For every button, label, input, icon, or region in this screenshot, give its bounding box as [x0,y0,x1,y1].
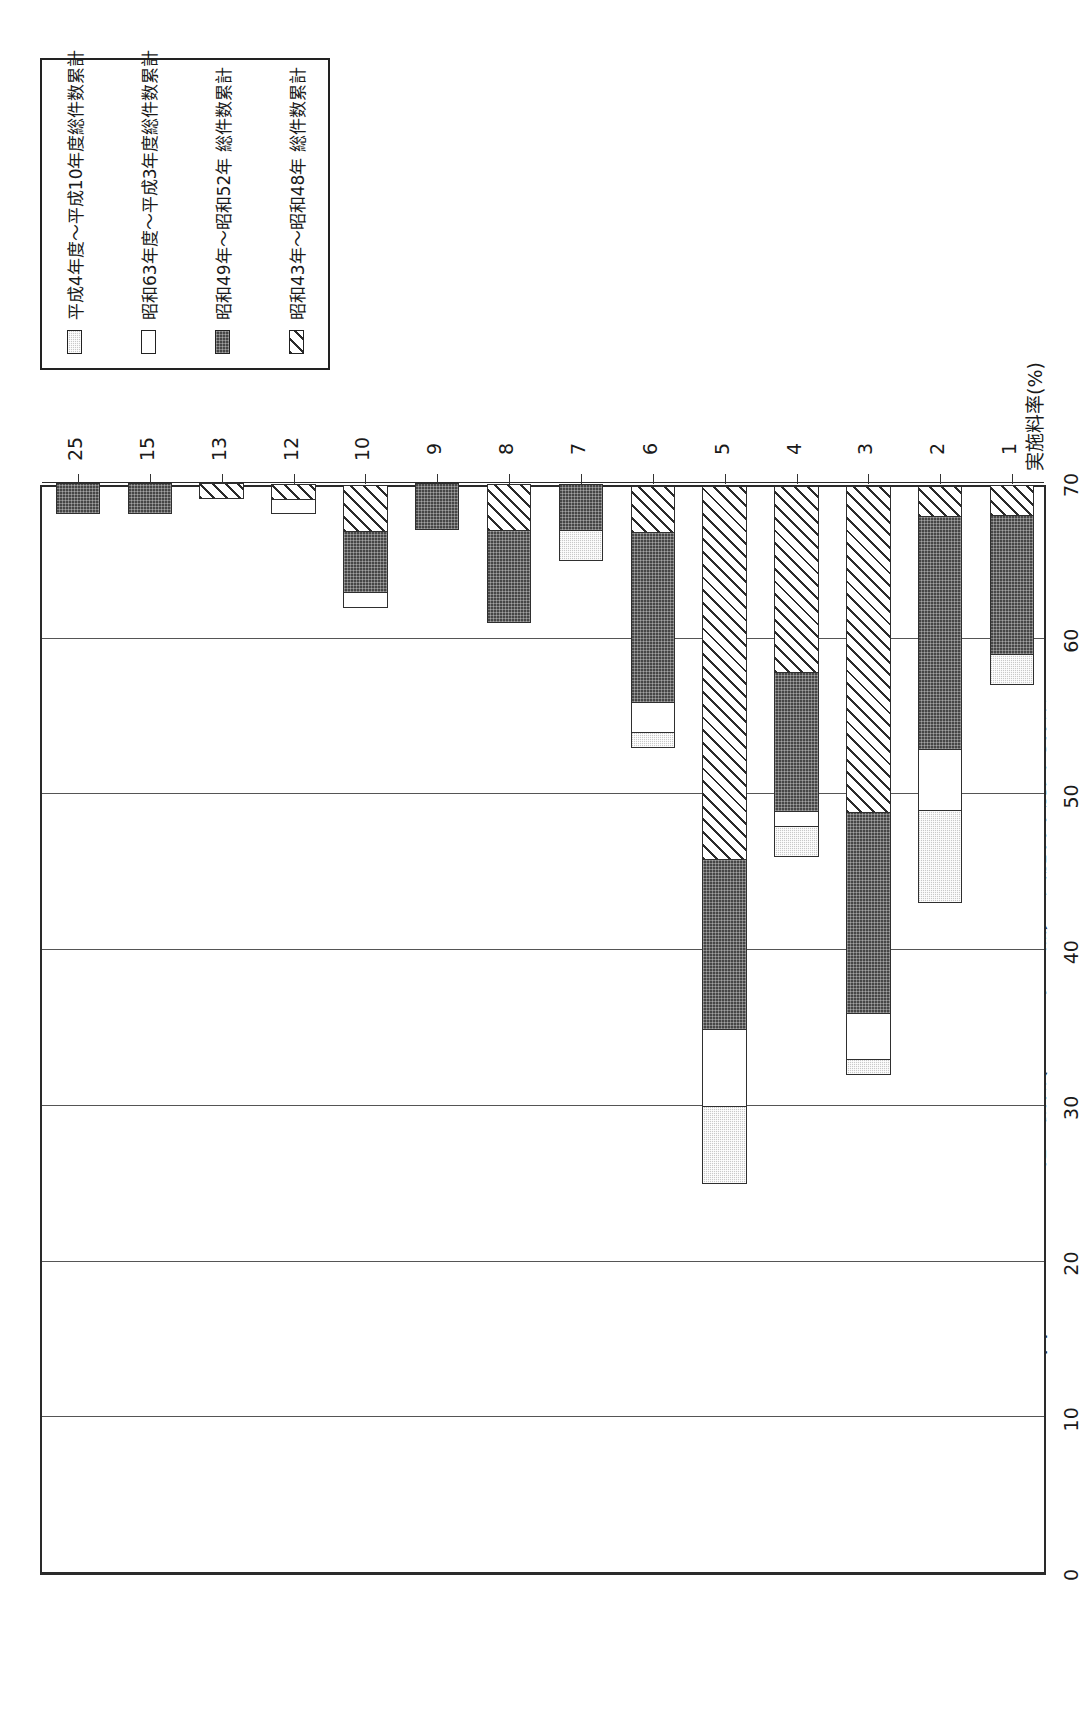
gridline [42,482,1044,483]
bar-stack[interactable] [990,483,1035,685]
category-axis-tick-label: 1 [998,429,1020,469]
legend-item[interactable]: 昭和49年～昭和52年 総件数累計 [200,74,244,354]
category-axis-tick-label: 4 [783,429,805,469]
category-tickmark [78,474,79,484]
bar-segment [918,749,963,811]
category-axis-tick-label: 6 [639,429,661,469]
bar-stack[interactable] [774,483,819,857]
category-tickmark [940,474,941,484]
bar-segment [487,530,532,623]
legend-item[interactable]: 昭和63年度～平成3年度総件数累計 [126,74,170,354]
bar-segment [199,483,244,499]
gridline [42,1261,1044,1262]
bar-segment [774,672,819,812]
category-axis-tick-label: 7 [567,429,589,469]
category-tickmark [509,474,510,484]
bar-segment [343,485,388,532]
bar-segment [343,592,388,608]
category-axis-tick-label: 25 [64,429,86,469]
category-tickmark [797,474,798,484]
bar-stack[interactable] [415,483,460,530]
gridline [42,1105,1044,1106]
legend-swatch-showa43-icon [289,330,304,354]
legend-swatch-showa63-icon [141,330,156,354]
rotated-figure-canvas: 図 2 －16－ 2 その他の機械(イニシャル 無)の実施料率別契約件数 平成4… [0,0,1090,1715]
bar-stack[interactable] [559,483,604,561]
bar-segment [774,826,819,857]
legend-swatch-showa49-icon [215,330,230,354]
bar-stack[interactable] [56,483,101,514]
bar-segment [702,1029,747,1107]
bar-stack[interactable] [343,483,388,608]
category-tickmark [725,474,726,484]
bar-segment [271,499,316,515]
bar-segment [918,516,963,750]
plot-area [40,485,1046,1575]
bar-segment [56,483,101,514]
category-axis-tick-label: 8 [495,429,517,469]
category-tickmark [294,474,295,484]
bar-stack[interactable] [918,483,963,903]
value-axis-tick-label: 30 [1060,1085,1082,1131]
bar-segment [702,859,747,1030]
bar-stack[interactable] [702,483,747,1184]
bar-stack[interactable] [487,483,532,623]
bar-segment [990,654,1035,685]
category-tickmark [150,474,151,484]
bar-segment [631,702,676,733]
category-tickmark [653,474,654,484]
bar-segment [343,531,388,593]
value-axis-tick-label: 50 [1060,773,1082,819]
value-axis-tick-label: 40 [1060,929,1082,975]
bar-segment [846,1059,891,1075]
gridline [42,793,1044,794]
legend-item-label: 昭和43年～昭和48年 総件数累計 [284,67,309,320]
gridline [42,638,1044,639]
value-axis-tick-label: 10 [1060,1396,1082,1442]
value-axis-tick-label: 70 [1060,462,1082,508]
bar-stack[interactable] [846,483,891,1075]
legend: 平成4年度～平成10年度総件数累計 昭和63年度～平成3年度総件数累計 昭和49… [40,58,330,370]
bar-stack[interactable] [271,483,316,514]
bar-stack[interactable] [631,483,676,748]
bar-segment [774,811,819,827]
category-axis-tick-label: 2 [926,429,948,469]
category-tickmark [868,474,869,484]
value-axis-tick-label: 60 [1060,618,1082,664]
category-axis-tick-label: 5 [711,429,733,469]
legend-item[interactable]: 昭和43年～昭和48年 総件数累計 [274,74,318,354]
bar-segment [918,486,963,517]
category-tickmark [222,474,223,484]
bar-segment [846,812,891,1014]
category-tickmark [365,474,366,484]
bar-stack[interactable] [128,483,173,514]
bar-segment [128,483,173,514]
bar-segment [415,483,460,530]
gridline [42,1416,1044,1417]
category-tickmark [437,474,438,484]
bar-segment [918,810,963,903]
gridline [42,1572,1044,1573]
bar-segment [631,732,676,748]
category-tickmark [581,474,582,484]
legend-item-label: 昭和49年～昭和52年 総件数累計 [210,67,235,320]
legend-swatch-heisei4-icon [67,330,82,354]
category-tickmark [1012,474,1013,484]
bar-segment [846,486,891,813]
category-axis-tick-label: 15 [136,429,158,469]
legend-item[interactable]: 平成4年度～平成10年度総件数累計 [52,74,96,354]
bar-segment [631,486,676,533]
category-axis-tick-label: 3 [854,429,876,469]
bar-segment [774,486,819,673]
bar-segment [271,484,316,500]
bar-segment [559,530,604,561]
category-axis-tick-label: 13 [208,429,230,469]
category-axis-title: 実施料率(%) [1020,362,1047,471]
bar-segment [702,1106,747,1184]
bar-segment [559,484,604,531]
bar-segment [702,486,747,860]
plot-area-wrapper: 件数 実施料率(%) [40,485,1046,1575]
bar-stack[interactable] [199,483,244,499]
category-axis-tick-label: 10 [351,429,373,469]
gridline [42,949,1044,950]
